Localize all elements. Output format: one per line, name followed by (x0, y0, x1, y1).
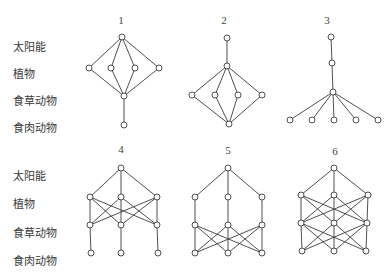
food-web-4 (87, 165, 161, 256)
node-sun (225, 165, 231, 171)
energy-flow-edge (334, 168, 368, 195)
energy-flow-edge (89, 68, 124, 96)
energy-flow-edge (122, 37, 135, 68)
node-carn (353, 117, 359, 123)
energy-flow-edge (89, 37, 122, 68)
node-carn (287, 117, 293, 123)
food-web-1 (86, 34, 162, 128)
node-sun (118, 165, 124, 171)
food-web-diagrams (0, 0, 389, 273)
energy-flow-edge (333, 92, 378, 120)
energy-flow-edge (228, 168, 262, 197)
energy-flow-edge (157, 225, 158, 253)
node-plant (87, 194, 93, 200)
node-carn (121, 122, 127, 128)
energy-flow-edge (301, 223, 302, 251)
node-herb (87, 222, 93, 228)
node-carn (88, 250, 94, 256)
node-carn (226, 121, 232, 127)
node-herb (235, 92, 241, 98)
energy-flow-edge (312, 92, 333, 120)
energy-flow-edge (301, 168, 334, 195)
food-web-2 (189, 35, 265, 127)
energy-flow-edge (333, 92, 334, 120)
node-sun (328, 34, 334, 40)
node-herb (189, 92, 195, 98)
node-sun (331, 165, 337, 171)
node-carn (309, 117, 315, 123)
energy-flow-edge (90, 225, 91, 253)
node-carn (363, 248, 369, 254)
energy-flow-edge (215, 66, 227, 95)
node-carn (259, 250, 265, 256)
node-plant (224, 63, 230, 69)
node-herb (331, 220, 337, 226)
energy-flow-edge (192, 66, 227, 95)
node-herb (118, 222, 124, 228)
energy-flow-edge (332, 63, 333, 92)
node-carn (331, 117, 337, 123)
energy-flow-edge (121, 168, 157, 197)
node-carn (192, 250, 198, 256)
energy-flow-edge (290, 92, 333, 120)
node-carn (375, 117, 381, 123)
energy-flow-edge (192, 95, 229, 124)
node-carn (331, 248, 337, 254)
energy-flow-edge (195, 168, 228, 197)
node-plant (259, 194, 265, 200)
node-herb (192, 222, 198, 228)
energy-flow-edge (331, 37, 332, 63)
node-herb (330, 89, 336, 95)
node-herb (212, 92, 218, 98)
node-carn (299, 248, 305, 254)
node-plant (86, 65, 92, 71)
food-web-5 (192, 165, 265, 256)
energy-flow-edge (215, 95, 229, 124)
energy-flow-edge (111, 68, 124, 96)
node-plant (156, 65, 162, 71)
node-plant (225, 194, 231, 200)
node-herb (259, 92, 265, 98)
node-herb (364, 220, 370, 226)
node-carn (225, 250, 231, 256)
node-plant (298, 192, 304, 198)
food-web-6 (298, 165, 371, 254)
node-plant (132, 65, 138, 71)
node-herb (121, 93, 127, 99)
energy-flow-edge (366, 223, 367, 251)
node-carn (118, 250, 124, 256)
node-herb (298, 220, 304, 226)
node-plant (154, 194, 160, 200)
node-sun (119, 34, 125, 40)
node-herb (154, 222, 160, 228)
energy-flow-edge (122, 37, 159, 68)
node-sun (224, 35, 230, 41)
node-plant (365, 192, 371, 198)
node-plant (108, 65, 114, 71)
node-herb (259, 222, 265, 228)
node-plant (329, 60, 335, 66)
food-web-3 (287, 34, 381, 123)
energy-flow-edge (90, 168, 121, 197)
energy-flow-edge (367, 195, 368, 223)
node-carn (155, 250, 161, 256)
node-plant (331, 192, 337, 198)
energy-flow-edge (333, 92, 356, 120)
node-plant (192, 194, 198, 200)
node-herb (225, 222, 231, 228)
node-plant (118, 194, 124, 200)
